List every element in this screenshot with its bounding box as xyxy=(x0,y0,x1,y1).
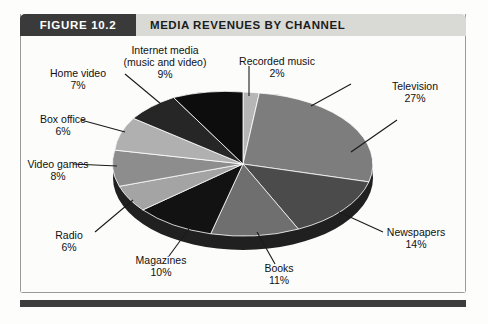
slice-label-video-games-text: Video games xyxy=(27,158,88,170)
slice-value-home-video: 7% xyxy=(37,79,119,91)
slice-label-magazines-text: Magazines xyxy=(136,254,187,266)
pie-slices xyxy=(112,91,372,236)
slice-label-box-office-text: Box office xyxy=(40,113,86,125)
slice-label-books-text: Books xyxy=(264,262,293,274)
slice-label-box-office: Box office 6% xyxy=(27,113,99,137)
slice-value-newspapers: 14% xyxy=(373,238,459,250)
slice-value-magazines: 10% xyxy=(119,266,203,278)
slice-value-radio: 6% xyxy=(41,241,97,253)
slice-value-books: 11% xyxy=(249,274,309,286)
slice-label-magazines: Magazines 10% xyxy=(119,254,203,278)
slice-label-newspapers-text: Newspapers xyxy=(387,226,445,238)
slice-label-newspapers: Newspapers 14% xyxy=(373,226,459,250)
slice-value-recorded-music: 2% xyxy=(227,67,327,79)
slice-label-radio: Radio 6% xyxy=(41,229,97,253)
slice-label-video-games: Video games 8% xyxy=(21,158,101,182)
slice-label-recorded-music: Recorded music 2% xyxy=(227,55,327,79)
footer-rule xyxy=(20,300,466,307)
slice-label-home-video: Home video 7% xyxy=(37,67,119,91)
slice-value-video-games: 8% xyxy=(21,170,101,182)
slice-label-recorded-music-text: Recorded music xyxy=(239,55,315,67)
slice-label-internet-media-line2: (music and video) xyxy=(124,56,207,68)
figure-title: MEDIA REVENUES BY CHANNEL xyxy=(136,14,466,36)
slice-value-internet-media: 9% xyxy=(105,68,225,80)
slice-label-internet-media: Internet media (music and video) 9% xyxy=(105,44,225,80)
slice-label-television-text: Television xyxy=(392,80,438,92)
slice-label-radio-text: Radio xyxy=(55,229,82,241)
pie-chart: Internet media (music and video) 9% Reco… xyxy=(21,36,465,292)
slice-label-home-video-text: Home video xyxy=(50,67,106,79)
slice-label-books: Books 11% xyxy=(249,262,309,286)
slice-value-television: 27% xyxy=(377,92,453,104)
slice-label-internet-media-line1: Internet media xyxy=(131,44,198,56)
slice-value-box-office: 6% xyxy=(27,125,99,137)
figure-number-tag: FIGURE 10.2 xyxy=(20,14,136,36)
slice-label-television: Television 27% xyxy=(377,80,453,104)
figure-header: FIGURE 10.2 MEDIA REVENUES BY CHANNEL xyxy=(20,14,466,36)
